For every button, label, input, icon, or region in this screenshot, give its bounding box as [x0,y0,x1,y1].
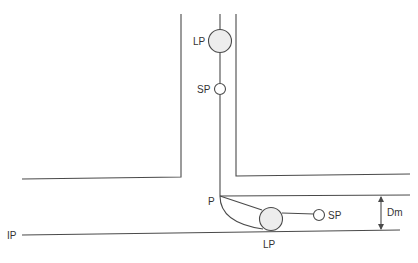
label-ip: IP [7,231,16,241]
straight-trajectory [220,196,262,210]
dm-arrow-up-icon [378,196,384,202]
right-wall [236,14,410,176]
dm-arrow-down-icon [378,224,384,230]
label-p-junction: P [208,197,215,207]
diagram-canvas: LP SP P SP LP Dm IP [0,0,418,263]
large-particle-bottom [260,208,283,231]
label-dm: Dm [387,208,403,218]
lp-sp-connector [282,213,314,214]
large-particle-top [209,30,232,53]
small-particle-top [215,84,226,95]
label-sp-bottom: SP [328,211,341,221]
curved-trajectory [220,196,263,229]
small-particle-bottom [314,210,325,221]
label-lp-bottom: LP [263,240,275,250]
label-sp-top: SP [197,85,210,95]
upper-boundary-line [220,195,410,196]
left-wall [22,14,181,179]
label-lp-top: LP [193,37,205,47]
diagram-svg [0,0,418,263]
ip-line [22,230,400,235]
